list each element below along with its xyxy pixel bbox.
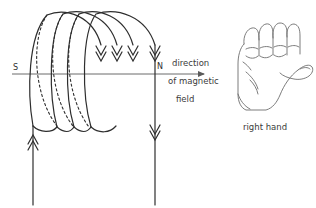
solenoid-diagram	[0, 0, 316, 208]
north-pole-label: N	[157, 61, 163, 72]
field-direction-caption-line1: direction	[172, 58, 209, 69]
finger-2	[259, 24, 273, 55]
loop-arrow-3	[128, 46, 138, 61]
figure-canvas: S N direction of magnetic field right ha…	[0, 0, 316, 208]
south-pole-label: S	[13, 62, 18, 73]
loop-current-arrows	[96, 46, 160, 61]
field-direction-caption-line2: of magnetic	[168, 76, 219, 87]
field-direction-caption-line3: field	[176, 94, 194, 105]
loop-arrow-2	[112, 46, 122, 61]
coil-bottom-sweeps	[33, 126, 116, 132]
coil-solid-loops	[30, 12, 155, 127]
coil-dashed-loops	[37, 14, 89, 127]
right-hand-label: right hand	[243, 122, 287, 133]
hand-outline	[238, 44, 298, 110]
finger-3	[273, 23, 287, 55]
right-hand-illustration	[238, 23, 313, 110]
finger-4	[287, 24, 300, 54]
finger-1	[244, 28, 259, 56]
loop-arrow-1	[96, 46, 106, 61]
